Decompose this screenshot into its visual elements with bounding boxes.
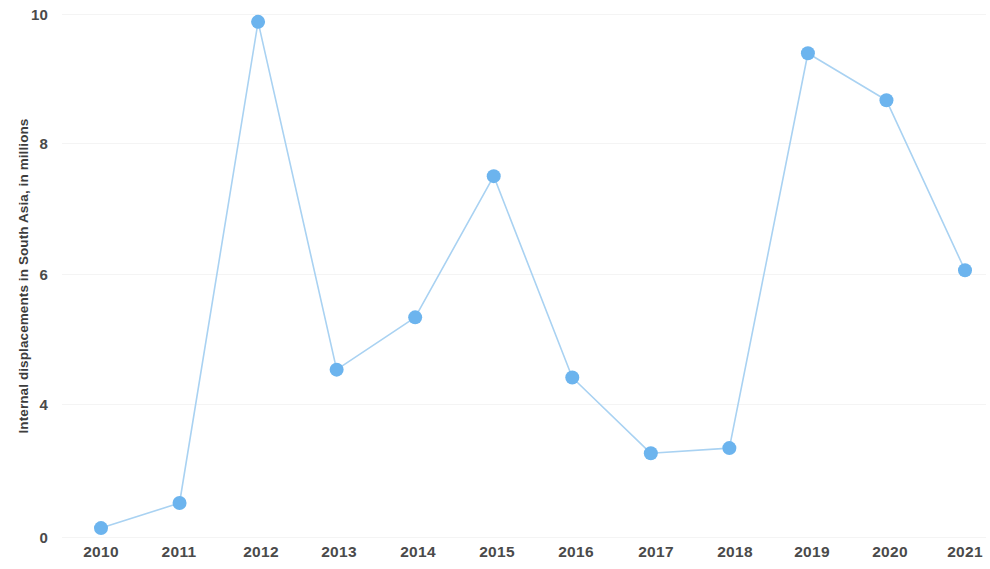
data-point-2021[interactable] [958,263,972,277]
series-line [101,22,965,528]
data-point-2013[interactable] [330,363,344,377]
data-point-2019[interactable] [801,46,815,60]
data-point-2015[interactable] [487,169,501,183]
data-point-2011[interactable] [173,496,187,510]
data-point-2012[interactable] [251,15,265,29]
data-point-2014[interactable] [408,310,422,324]
plot-area [0,0,990,569]
data-point-2016[interactable] [565,370,579,384]
data-point-2018[interactable] [722,441,736,455]
data-point-2017[interactable] [644,446,658,460]
data-point-2010[interactable] [94,521,108,535]
line-chart: Internal displacements in South Asia, in… [0,0,990,569]
data-point-2020[interactable] [879,93,893,107]
